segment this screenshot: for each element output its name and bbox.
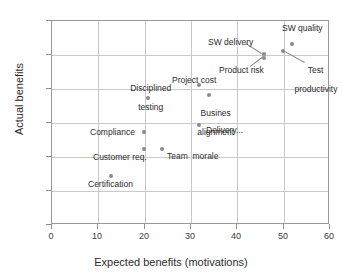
label-compliance: Compliance: [90, 128, 135, 138]
xtick-mark-20: [144, 224, 145, 229]
label-sw-delivery: SW delivery: [208, 38, 253, 48]
ytick-mark-30: [46, 122, 51, 123]
label-team-morale: Team morale: [167, 152, 219, 162]
gridline-x-10: [98, 21, 99, 223]
xtick-label-60: 60: [314, 232, 342, 241]
data-point-team-morale[interactable]: [160, 147, 164, 151]
data-point-busines-alignment[interactable]: [207, 93, 211, 97]
ytick-mark-60: [46, 20, 51, 21]
xtick-label-20: 20: [129, 232, 159, 241]
xtick-label-30: 30: [175, 232, 205, 241]
data-point-customer-req[interactable]: [142, 147, 146, 151]
label-product-risk: Product risk: [219, 66, 264, 76]
label-busines-alignment-line1: Busines: [201, 108, 231, 118]
xtick-label-50: 50: [268, 232, 298, 241]
xtick-label-40: 40: [221, 232, 251, 241]
gridline-x-20: [145, 21, 146, 223]
label-test-productivity-line2: productivity: [294, 84, 337, 94]
data-point-sw-delivery[interactable]: [262, 52, 266, 56]
xtick-label-10: 10: [82, 232, 112, 241]
label-disciplined-testing: Disciplined testing: [118, 74, 174, 122]
label-certification: Certification: [88, 180, 133, 190]
xtick-mark-40: [236, 224, 237, 229]
data-point-product-risk[interactable]: [262, 56, 266, 60]
label-disciplined-testing-line1: Disciplined: [130, 83, 171, 93]
label-disciplined-testing-line2: testing: [138, 102, 163, 112]
scatter-chart: 60 50 40 30 20 10 0 0 10 20 30 40 50 60 …: [0, 0, 342, 279]
label-test-productivity: Test productivity: [285, 56, 337, 104]
xtick-mark-50: [283, 224, 284, 229]
ytick-mark-50: [46, 54, 51, 55]
gridline-y-10: [52, 191, 328, 192]
data-point-certification[interactable]: [109, 174, 113, 178]
label-customer-req: Customer req.: [93, 153, 147, 163]
data-point-test-productivity[interactable]: [281, 49, 285, 53]
label-sw-quality: SW quality: [282, 24, 323, 34]
label-test-productivity-line1: Test: [308, 65, 324, 75]
xtick-mark-60: [329, 224, 330, 229]
label-project-cost: Project cost: [172, 76, 216, 86]
ytick-mark-10: [46, 190, 51, 191]
label-busines-alignment: Busines alignment: [184, 99, 238, 147]
xtick-mark-10: [97, 224, 98, 229]
data-point-sw-quality[interactable]: [290, 42, 294, 46]
data-point-compliance[interactable]: [142, 130, 146, 134]
y-axis-title: Actual benefits: [13, 39, 25, 159]
xtick-label-0: 0: [36, 232, 66, 241]
xtick-mark-0: [51, 224, 52, 229]
label-busines-alignment-line2: alignment: [197, 127, 234, 137]
x-axis-title: Expected benefits (motivations): [0, 256, 342, 268]
ytick-mark-40: [46, 88, 51, 89]
ytick-mark-20: [46, 156, 51, 157]
xtick-mark-30: [190, 224, 191, 229]
